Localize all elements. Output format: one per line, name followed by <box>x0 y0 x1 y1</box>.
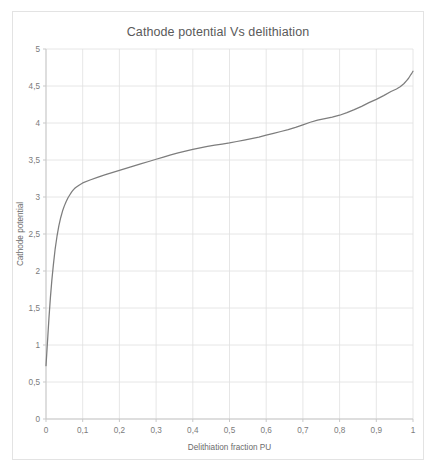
y-tick-label: 5 <box>35 45 40 54</box>
y-axis-title: Cathode potential <box>16 202 25 266</box>
y-tick-label: 1,5 <box>29 304 41 313</box>
x-tick-label: 0,4 <box>187 426 199 435</box>
x-tick-label: 0,7 <box>297 426 309 435</box>
x-tick-label: 0,3 <box>150 426 162 435</box>
x-tick-label: 0 <box>44 426 49 435</box>
x-tick-label: 0,2 <box>114 426 126 435</box>
y-tick-label: 0 <box>35 415 40 424</box>
y-tick-label: 4 <box>35 119 40 128</box>
x-tick-label: 0,6 <box>261 426 273 435</box>
y-tick-label: 0,5 <box>29 378 41 387</box>
y-tick-label: 1 <box>35 341 40 350</box>
x-tick-label: 0,1 <box>77 426 89 435</box>
chart-plot: 00,511,522,533,544,5500,10,20,30,40,50,6… <box>13 12 425 461</box>
y-tick-label: 4,5 <box>29 82 41 91</box>
x-tick-label: 0,5 <box>224 426 236 435</box>
y-tick-label: 3 <box>35 193 40 202</box>
y-tick-label: 2 <box>35 267 40 276</box>
x-tick-label: 0,9 <box>371 426 383 435</box>
x-tick-label: 0,8 <box>334 426 346 435</box>
chart-card: Cathode potential Vs delithiation 00,511… <box>12 11 424 460</box>
y-tick-label: 3,5 <box>29 156 41 165</box>
x-tick-label: 1 <box>411 426 416 435</box>
x-axis-title: Delithiation fraction PU <box>188 443 271 452</box>
y-tick-label: 2,5 <box>29 230 41 239</box>
